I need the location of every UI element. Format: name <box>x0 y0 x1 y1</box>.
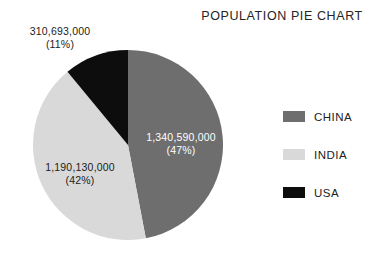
slice-label-usa: 310,693,000 (11%) <box>8 25 112 51</box>
legend-label-usa: USA <box>314 187 339 199</box>
legend-swatch-india <box>283 149 305 160</box>
slice-value-usa: 310,693,000 <box>8 25 112 38</box>
slice-label-china: 1,340,590,000 (47%) <box>133 131 229 157</box>
legend-item-usa: USA <box>283 186 379 199</box>
legend-swatch-usa <box>283 187 305 198</box>
legend-swatch-china <box>283 111 305 122</box>
chart-title: POPULATION PIE CHART <box>189 9 375 23</box>
slice-percent-india: (42%) <box>27 174 133 187</box>
slice-value-india: 1,190,130,000 <box>27 161 133 174</box>
legend-label-india: INDIA <box>314 149 347 161</box>
legend-item-china: CHINA <box>283 110 379 123</box>
slice-label-india: 1,190,130,000 (42%) <box>27 161 133 187</box>
slice-value-china: 1,340,590,000 <box>133 131 229 144</box>
legend-item-india: INDIA <box>283 148 379 161</box>
slice-percent-china: (47%) <box>133 144 229 157</box>
slice-percent-usa: (11%) <box>8 38 112 51</box>
pie-chart-figure: POPULATION PIE CHART 1,340,590,000 (47%)… <box>0 0 381 261</box>
chart-legend: CHINA INDIA USA <box>283 110 379 199</box>
legend-label-china: CHINA <box>314 111 352 123</box>
